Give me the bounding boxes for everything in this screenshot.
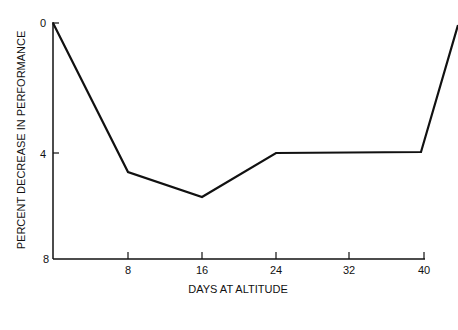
line-chart: 0 4 8 8 16 24 32 40 DAYS AT ALTITUDE PER… <box>0 0 458 330</box>
x-tick-label: 24 <box>270 264 282 276</box>
x-tick-label: 32 <box>343 264 355 276</box>
y-tick-label: 0 <box>40 17 46 29</box>
data-line <box>53 23 458 197</box>
x-tick-label: 8 <box>125 264 131 276</box>
y-tick-label: 4 <box>40 148 46 160</box>
x-tick-label: 16 <box>196 264 208 276</box>
x-axis-title: DAYS AT ALTITUDE <box>188 283 287 295</box>
y-tick-label: 8 <box>43 253 49 265</box>
y-axis-title: PERCENT DECREASE IN PERFORMANCE <box>15 31 27 250</box>
x-tick-label: 40 <box>418 264 430 276</box>
